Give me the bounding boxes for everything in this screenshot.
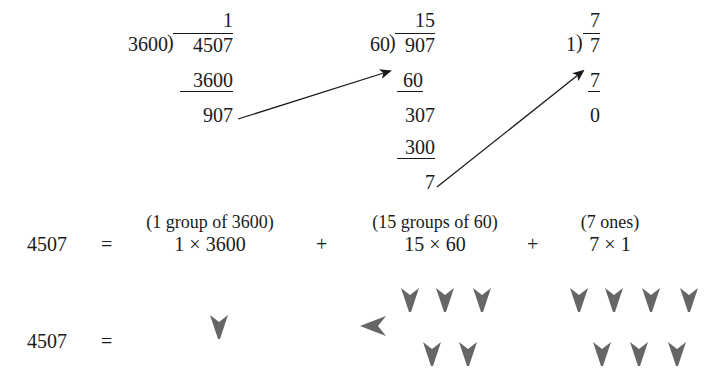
unit-wedge-icon <box>642 286 660 312</box>
unit-wedge-icon <box>401 286 419 312</box>
unit-wedge-icon <box>423 340 441 366</box>
term-expr-2: 15 × 60 <box>355 233 515 255</box>
plus-1: + <box>316 233 327 255</box>
expansion-equals: = <box>101 233 112 255</box>
unit-wedge-icon <box>680 286 698 312</box>
expansion-lhs: 4507 <box>27 233 67 255</box>
unit-wedge-icon <box>630 340 648 366</box>
term-expr-1: 1 × 3600 <box>130 233 290 255</box>
unit-wedge-icon <box>593 340 611 366</box>
term-label-3: (7 ones) <box>550 212 670 233</box>
unit-wedge-icon <box>668 340 686 366</box>
unit-wedge-icon <box>210 313 228 339</box>
arrow-remainder-1 <box>238 71 390 119</box>
unit-wedge-icon <box>436 286 454 312</box>
term-label-1: (1 group of 3600) <box>130 212 290 233</box>
babylonian-equals: = <box>101 330 112 352</box>
unit-wedge-icon <box>570 286 588 312</box>
term-label-2: (15 groups of 60) <box>355 212 515 233</box>
term-expr-3: 7 × 1 <box>550 233 670 255</box>
babylonian-lhs: 4507 <box>27 330 67 352</box>
unit-wedge-icon <box>459 340 477 366</box>
ten-wedge-icon <box>360 316 388 336</box>
unit-wedge-icon <box>605 286 623 312</box>
arrow-remainder-2 <box>437 71 583 187</box>
plus-2: + <box>527 233 538 255</box>
unit-wedge-icon <box>473 286 491 312</box>
